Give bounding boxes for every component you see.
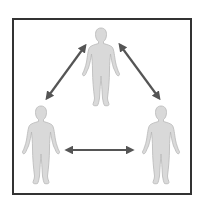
- person-figure-left: [22, 106, 59, 184]
- person-icon: [22, 106, 59, 184]
- person-figure-right: [142, 106, 179, 184]
- person-icon: [82, 28, 119, 106]
- person-figure-top: [82, 28, 119, 106]
- double-arrow-top-right: [120, 45, 159, 98]
- person-icon: [142, 106, 179, 184]
- relationship-diagram: [0, 0, 205, 210]
- double-arrow-top-left: [47, 46, 85, 98]
